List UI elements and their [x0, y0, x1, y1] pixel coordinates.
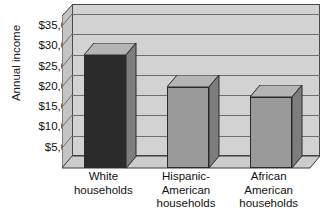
bar-front-face — [250, 97, 292, 168]
wall-tick — [62, 95, 73, 109]
wall-tick — [62, 34, 73, 48]
bar-side-face — [292, 85, 304, 170]
category-label-line: households — [215, 197, 322, 211]
category-label-line: African — [215, 170, 322, 184]
wall-tick — [62, 75, 73, 89]
bar-side-face — [209, 75, 221, 170]
plot-area — [62, 4, 320, 168]
bar-front-face — [167, 87, 209, 168]
bar-chart-figure: Annual income $35,000$30,000$25,000$20,0… — [0, 0, 332, 218]
wall-tick — [62, 55, 73, 69]
bar-1 — [84, 43, 126, 168]
x-axis-category-labels: WhitehouseholdsHispanic-Americanhousehol… — [62, 170, 332, 218]
bar-2 — [167, 75, 209, 168]
wall-tick — [62, 115, 73, 129]
wall-tick — [62, 14, 73, 28]
bar-3 — [250, 85, 292, 168]
bar-front-face — [84, 55, 126, 168]
wall-tick — [62, 136, 73, 150]
gridline — [72, 34, 320, 35]
gridline — [72, 14, 320, 15]
bar-side-face — [126, 43, 138, 170]
category-label-line: American — [215, 184, 322, 198]
x-axis-category-label: AfricanAmericanhouseholds — [215, 170, 322, 211]
